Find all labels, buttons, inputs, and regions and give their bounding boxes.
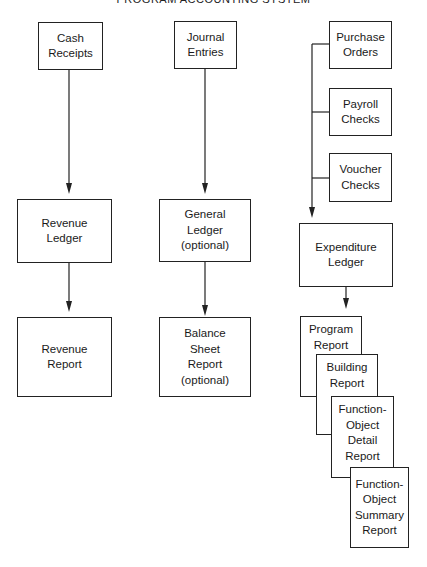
revenue-ledger-box: RevenueLedger — [17, 199, 112, 263]
payroll-checks-box: PayrollChecks — [329, 88, 392, 136]
arrow-cash-to-revenue-ledger — [66, 69, 72, 194]
journal-entries-box: JournalEntries — [174, 21, 237, 69]
arrow-journal-to-general-ledger — [202, 68, 208, 194]
arrow-general-ledger-to-balance-sheet — [202, 262, 208, 316]
balance-sheet-report-box: BalanceSheetReport(optional) — [159, 317, 251, 397]
general-ledger-box: GeneralLedger(optional) — [159, 199, 251, 262]
voucher-checks-box: VoucherChecks — [329, 153, 392, 202]
function-object-detail-report-box: Function-ObjectDetailReport — [331, 396, 394, 478]
revenue-report-box: RevenueReport — [17, 317, 112, 397]
cash-receipts-box: CashReceipts — [38, 22, 103, 70]
expenditure-ledger-box: ExpenditureLedger — [299, 223, 393, 287]
arrow-sources-to-expenditure-ledger — [309, 44, 329, 218]
purchase-orders-box: PurchaseOrders — [329, 21, 392, 69]
arrow-expenditure-ledger-to-reports — [343, 287, 349, 309]
arrow-revenue-ledger-to-report — [66, 263, 72, 312]
function-object-summary-report-box: Function-ObjectSummaryReport — [350, 467, 409, 548]
